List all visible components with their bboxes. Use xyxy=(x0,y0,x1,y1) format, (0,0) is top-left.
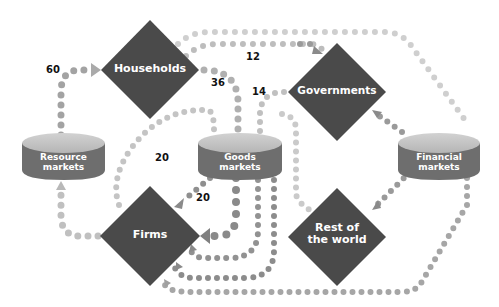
arrow-icon xyxy=(200,228,210,244)
households-label: Households xyxy=(100,63,200,75)
arrow-icon xyxy=(56,181,66,190)
flow-label-20-firms-goods: 20 xyxy=(155,152,169,163)
governments-label: Governments xyxy=(287,85,387,97)
resource-markets-label: Resource markets xyxy=(22,153,105,173)
flow-label-36: 36 xyxy=(211,77,225,88)
flow-goods-restofworld xyxy=(282,114,310,210)
arrow-icon xyxy=(176,262,183,270)
flow-label-60: 60 xyxy=(46,64,60,75)
goods-markets-label: Goods markets xyxy=(198,153,282,173)
resource-markets-line2: markets xyxy=(22,163,105,173)
flow-label-14: 14 xyxy=(252,86,266,97)
firms-label: Firms xyxy=(100,229,200,241)
flow-label-20-goods-firms: 20 xyxy=(196,192,210,203)
flow-firms-resource xyxy=(61,192,98,236)
circular-flow-diagram: Households Governments Firms Rest of the… xyxy=(0,0,499,307)
rest-of-world-label: Rest of the world xyxy=(287,222,387,246)
goods-markets-line2: markets xyxy=(198,163,282,173)
financial-markets-label: Financial markets xyxy=(398,153,480,173)
financial-markets-line2: markets xyxy=(398,163,480,173)
flow-financial-governments xyxy=(378,115,402,132)
arrow-icon xyxy=(174,198,184,209)
rest-of-world-line2: the world xyxy=(287,234,387,246)
flow-label-12: 12 xyxy=(246,51,260,62)
flow-financial-restofworld xyxy=(378,172,410,204)
